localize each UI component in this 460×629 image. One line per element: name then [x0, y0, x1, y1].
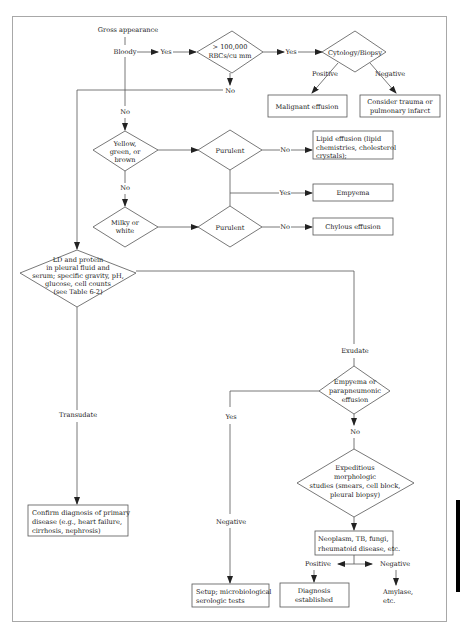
svg-text:chemistries, cholesterol: chemistries, cholesterol	[316, 144, 396, 152]
svg-text:RBCs/cu mm: RBCs/cu mm	[208, 52, 252, 60]
svg-text:Empyema or: Empyema or	[334, 378, 377, 386]
svg-text:in pleural fluid and: in pleural fluid and	[46, 264, 110, 272]
edge-bloody-no: No	[120, 108, 130, 116]
svg-text:pleural biopsy): pleural biopsy)	[330, 491, 380, 499]
svg-text:cirrhosis, nephrosis): cirrhosis, nephrosis)	[32, 527, 101, 535]
edge-purulent2-no: No	[280, 223, 290, 231]
svg-text:Confirm diagnosis of primary: Confirm diagnosis of primary	[32, 509, 130, 517]
edge-neoplasm-negative: Negative	[380, 560, 410, 568]
edge-bloody-yes: Yes	[159, 48, 172, 56]
svg-text:white: white	[116, 227, 135, 235]
svg-text:Empyema: Empyema	[336, 189, 369, 197]
svg-text:Setup; microbiological: Setup; microbiological	[196, 588, 271, 596]
edge-rbc-no: No	[225, 87, 235, 95]
thumb-index-tab	[456, 500, 460, 592]
svg-text:> 100,000: > 100,000	[213, 43, 248, 51]
svg-text:morphologic: morphologic	[334, 473, 376, 481]
svg-text:Expeditious: Expeditious	[335, 464, 375, 472]
edge-empyema-yes: Yes	[224, 413, 237, 421]
svg-text:established: established	[295, 596, 334, 604]
svg-text:Chylous effusion: Chylous effusion	[325, 223, 381, 231]
svg-text:brown: brown	[114, 156, 136, 164]
svg-text:Cytology/Biopsy: Cytology/Biopsy	[328, 49, 382, 57]
svg-text:Yellow,: Yellow,	[113, 140, 137, 148]
svg-text:glucose, cell counts: glucose, cell counts	[45, 280, 111, 288]
edge-cytology-negative: Negative	[375, 70, 405, 78]
svg-text:serum; specific gravity, pH,: serum; specific gravity, pH,	[32, 272, 124, 280]
svg-text:Purulent: Purulent	[216, 147, 245, 155]
svg-text:green, or: green, or	[110, 148, 142, 156]
edge-yellow-no: No	[120, 184, 130, 192]
svg-text:Milky or: Milky or	[111, 219, 140, 227]
result-amylase: Amylase,	[382, 588, 413, 596]
svg-text:crystals);: crystals);	[316, 152, 347, 160]
svg-text:rheumatoid disease, etc.: rheumatoid disease, etc.	[318, 545, 400, 553]
node-bloody: Bloody	[114, 48, 137, 56]
edge-cytology-positive: Positive	[312, 70, 338, 78]
edge-empyema-no: No	[350, 428, 360, 436]
svg-text:pulmonary infarct: pulmonary infarct	[370, 107, 431, 115]
title-gross-appearance: Gross appearance	[98, 26, 158, 34]
pleural-effusion-flowchart: Gross appearance Bloody Yes > 100,000 RB…	[0, 0, 460, 629]
edge-neoplasm-positive: Positive	[305, 560, 331, 568]
svg-text:Neoplasm, TB, fungi,: Neoplasm, TB, fungi,	[318, 535, 389, 543]
svg-text:LD and protein: LD and protein	[53, 256, 104, 264]
svg-text:serologic tests: serologic tests	[196, 597, 245, 605]
edge-rbc-yes: Yes	[284, 48, 297, 56]
edge-transudate: Transudate	[59, 411, 97, 419]
svg-text:etc.: etc.	[383, 597, 395, 605]
svg-text:disease (e.g., heart failure,: disease (e.g., heart failure,	[32, 518, 122, 526]
edge-exudate: Exudate	[341, 347, 369, 355]
edge-negative: Negative	[216, 518, 246, 526]
svg-text:Diagnosis: Diagnosis	[298, 587, 331, 595]
svg-text:(see Table 6-2): (see Table 6-2)	[53, 288, 103, 296]
edge-purulent-yes: Yes	[278, 189, 291, 197]
svg-text:studies (smears, cell block,: studies (smears, cell block,	[310, 482, 401, 490]
svg-text:Consider trauma or: Consider trauma or	[367, 98, 433, 106]
svg-text:Lipid effusion (lipid: Lipid effusion (lipid	[316, 135, 382, 143]
svg-text:parapneumonic: parapneumonic	[329, 387, 381, 395]
edge-purulent1-no: No	[280, 146, 290, 154]
svg-text:Purulent: Purulent	[216, 224, 245, 232]
svg-text:effusion: effusion	[342, 396, 369, 404]
svg-text:Malignant effusion: Malignant effusion	[276, 103, 340, 111]
